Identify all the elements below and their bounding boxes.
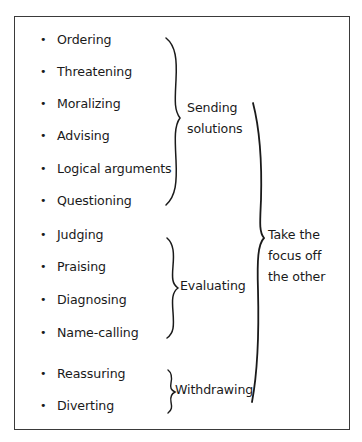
label-line: Take the [268, 224, 325, 245]
label-line: focus off [268, 245, 325, 266]
braces [0, 0, 362, 442]
label-line: Evaluating [180, 276, 246, 297]
label-line: Withdrawing [175, 380, 253, 401]
label-line: solutions [187, 119, 243, 140]
label-evaluating: Evaluating [180, 276, 246, 297]
label-sending-solutions: Sending solutions [187, 98, 243, 139]
label-line: Sending [187, 98, 243, 119]
brace-evaluating-icon [167, 238, 178, 338]
brace-withdrawing-icon [168, 370, 175, 413]
brace-overall-icon [252, 103, 264, 402]
label-take-focus-off-other: Take the focus off the other [268, 224, 325, 287]
label-withdrawing: Withdrawing [175, 380, 253, 401]
label-line: the other [268, 266, 325, 287]
brace-sending-solutions-icon [166, 38, 180, 205]
